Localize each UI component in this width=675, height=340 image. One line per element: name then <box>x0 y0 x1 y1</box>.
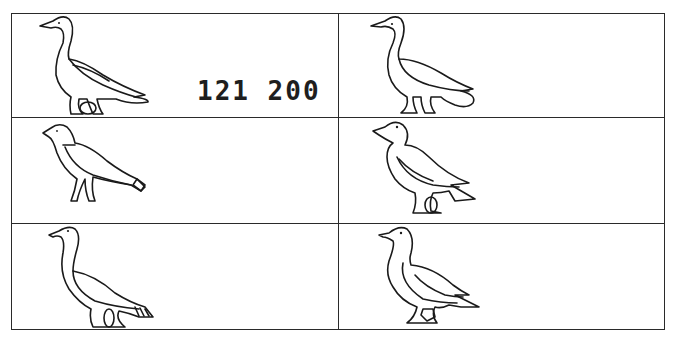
goose-forked-tail-icon <box>337 223 665 330</box>
cell-row1-col1: 121 200 <box>11 13 338 117</box>
goose-rounded-tail-icon <box>337 13 665 117</box>
long-necked-goose-striped-tail-icon <box>11 223 338 330</box>
duck-icon <box>337 117 665 223</box>
cell-row3-col1 <box>11 223 338 330</box>
cell-row1-col2 <box>337 13 665 117</box>
cell-row3-col2 <box>337 223 665 330</box>
cell-row2-col1 <box>11 117 338 223</box>
small-bird-icon <box>11 117 338 223</box>
cell-row2-col2 <box>337 117 665 223</box>
catalog-number: 121 200 <box>197 76 321 106</box>
